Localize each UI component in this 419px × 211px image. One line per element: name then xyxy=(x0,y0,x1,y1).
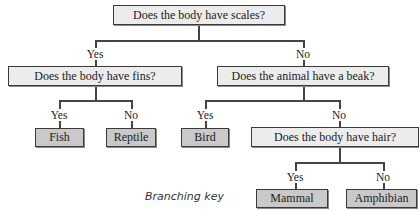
edge-label-hair-no: No xyxy=(375,171,391,183)
edge-label-scales-no: No xyxy=(295,48,311,60)
question-node-scales: Does the body have scales? xyxy=(113,5,285,25)
question-node-fins: Does the body have fins? xyxy=(8,66,182,86)
question-node-beak: Does the animal have a beak? xyxy=(217,66,389,86)
edge-label-fins-no: No xyxy=(123,109,139,121)
edge-label-hair-yes: Yes xyxy=(286,171,305,183)
connector xyxy=(303,85,305,100)
edge-label-scales-yes: Yes xyxy=(86,48,105,60)
question-node-hair: Does the body have hair? xyxy=(251,127,419,147)
leaf-node-mammal: Mammal xyxy=(256,189,328,208)
leaf-node-amphibian: Amphibian xyxy=(346,189,417,208)
connector xyxy=(295,162,384,164)
leaf-node-reptile: Reptile xyxy=(106,128,156,147)
connector xyxy=(95,40,304,42)
edge-label-beak-no: No xyxy=(331,109,347,121)
connector xyxy=(198,25,200,40)
connector xyxy=(95,85,97,100)
edge-label-fins-yes: Yes xyxy=(50,109,69,121)
connector xyxy=(59,100,132,102)
leaf-node-bird: Bird xyxy=(181,128,229,147)
connector xyxy=(339,147,341,162)
edge-label-beak-yes: Yes xyxy=(196,109,215,121)
diagram-caption: Branching key xyxy=(145,190,224,203)
connector xyxy=(205,100,340,102)
leaf-node-fish: Fish xyxy=(35,128,84,147)
